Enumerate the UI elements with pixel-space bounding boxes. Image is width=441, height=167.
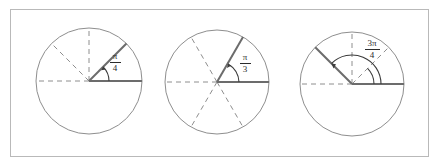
angle-label-2-denominator: 3 xyxy=(235,64,255,74)
inner-angle-arc-3 xyxy=(368,68,374,84)
angle-label-pi-over-4: π 4 xyxy=(105,52,125,73)
diagram-pi-over-3 xyxy=(165,30,269,134)
dashed-radius-2-240deg xyxy=(191,82,217,127)
unit-circle-figure: π 4 π 3 3π 4 xyxy=(0,0,441,167)
angle-label-pi-over-3: π 3 xyxy=(235,53,255,74)
angle-label-2-numerator: π xyxy=(235,53,255,63)
diagram-3pi-over-4 xyxy=(300,32,404,136)
angle-label-1-denominator: 4 xyxy=(105,63,125,73)
dashed-radius-1-135deg xyxy=(52,44,89,81)
angle-label-3-numerator: 3π xyxy=(360,39,384,49)
diagram-pi-over-4 xyxy=(36,28,142,134)
figure-canvas xyxy=(0,0,441,167)
angle-label-1-numerator: π xyxy=(105,52,125,62)
angle-label-3-denominator: 4 xyxy=(360,50,384,60)
dashed-radius-2-120deg xyxy=(191,37,217,82)
dashed-radius-2-300deg xyxy=(217,82,243,127)
angle-label-3pi-over-4: 3π 4 xyxy=(360,39,384,60)
